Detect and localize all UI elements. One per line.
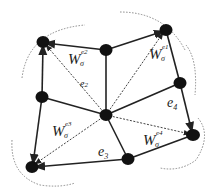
- label-e3: e3: [98, 145, 108, 161]
- graph-svg: [0, 0, 213, 190]
- label-w-e2: W e2 σ: [68, 52, 81, 67]
- graph-diagram: W e2 σ e2 W e1 σ e4 W e3 σ W e4 σ e3: [0, 0, 213, 190]
- label-e2: e2: [80, 79, 88, 89]
- label-e4: e4: [167, 96, 177, 112]
- label-w-e1: W e1 σ: [149, 47, 162, 62]
- label-w-e3: W e3 σ: [52, 124, 65, 139]
- label-w-e4: W e4 σ: [143, 133, 156, 148]
